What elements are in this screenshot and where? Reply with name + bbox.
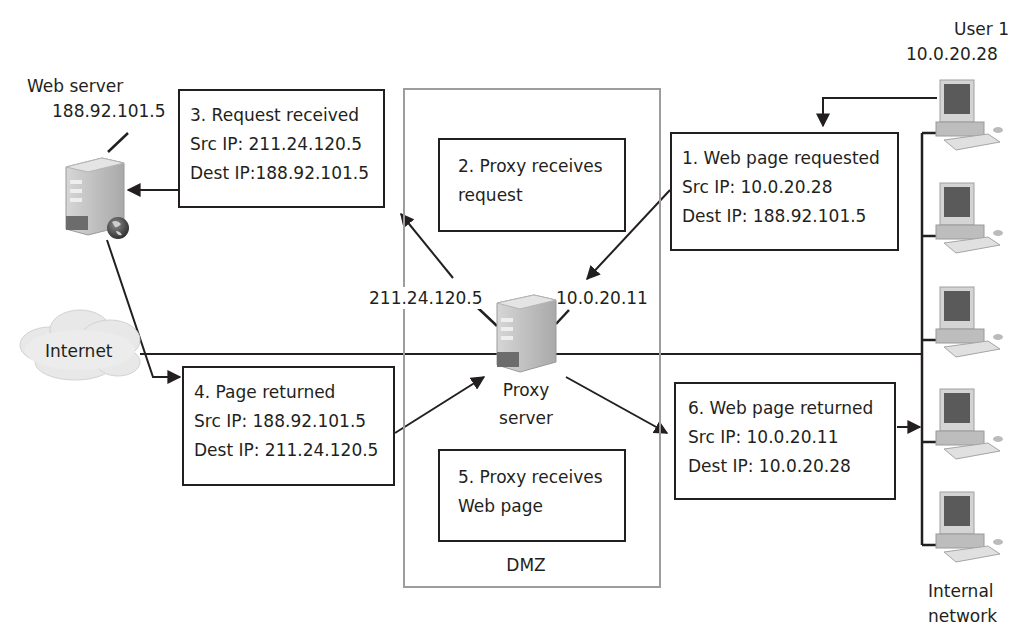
workstation-icon <box>936 183 1003 253</box>
step-2-box: 2. Proxy receives request <box>438 138 626 232</box>
workstation-icon <box>936 389 1003 459</box>
step-5-title: 5. Proxy receives <box>458 463 616 492</box>
step-1-box: 1. Web page requested Src IP: 10.0.20.28… <box>670 132 899 251</box>
step-4-dest: Dest IP: 211.24.120.5 <box>194 436 385 465</box>
internal-network-label-1: Internal <box>928 580 994 602</box>
step-1-src: Src IP: 10.0.20.28 <box>682 173 889 202</box>
step-6-src: Src IP: 10.0.20.11 <box>688 423 886 452</box>
step-3-title: 3. Request received <box>190 101 375 130</box>
step-5-box: 5. Proxy receives Web page <box>438 449 626 542</box>
proxy-label-1: Proxy <box>496 379 556 401</box>
internal-network-label-2: network <box>928 605 997 627</box>
arrow-user-to-step1 <box>823 98 937 126</box>
user1-label: User 1 <box>954 18 1009 40</box>
step-1-dest: Dest IP: 188.92.101.5 <box>682 202 889 231</box>
workstation-icon <box>936 492 1003 562</box>
user1-ip: 10.0.20.28 <box>906 43 998 65</box>
proxy-internal-ip: 10.0.20.11 <box>556 287 648 309</box>
workstation-icon-user1 <box>936 80 1003 150</box>
step-4-box: 4. Page returned Src IP: 188.92.101.5 De… <box>182 366 395 486</box>
proxy-label-2: server <box>496 407 556 429</box>
proxy-external-ip: 211.24.120.5 <box>369 287 483 309</box>
internet-label: Internet <box>45 340 113 362</box>
step-3-dest: Dest IP:188.92.101.5 <box>190 159 375 188</box>
step-2-title: 2. Proxy receives <box>458 152 616 181</box>
step-6-box: 6. Web page returned Src IP: 10.0.20.11 … <box>674 382 896 500</box>
step-4-src: Src IP: 188.92.101.5 <box>194 407 385 436</box>
step-1-title: 1. Web page requested <box>682 144 889 173</box>
step-2-title2: request <box>458 181 616 210</box>
step-6-title: 6. Web page returned <box>688 394 886 423</box>
step-4-title: 4. Page returned <box>194 378 385 407</box>
server-globe-icon <box>66 158 129 239</box>
workstation-icon <box>936 287 1003 357</box>
web-server-label: Web server <box>27 75 123 97</box>
step-5-title2: Web page <box>458 492 616 521</box>
step-3-src: Src IP: 211.24.120.5 <box>190 130 375 159</box>
step-3-box: 3. Request received Src IP: 211.24.120.5… <box>178 89 385 208</box>
step-6-dest: Dest IP: 10.0.20.28 <box>688 452 886 481</box>
dmz-label: DMZ <box>496 554 556 576</box>
web-server-ip: 188.92.101.5 <box>52 100 166 122</box>
